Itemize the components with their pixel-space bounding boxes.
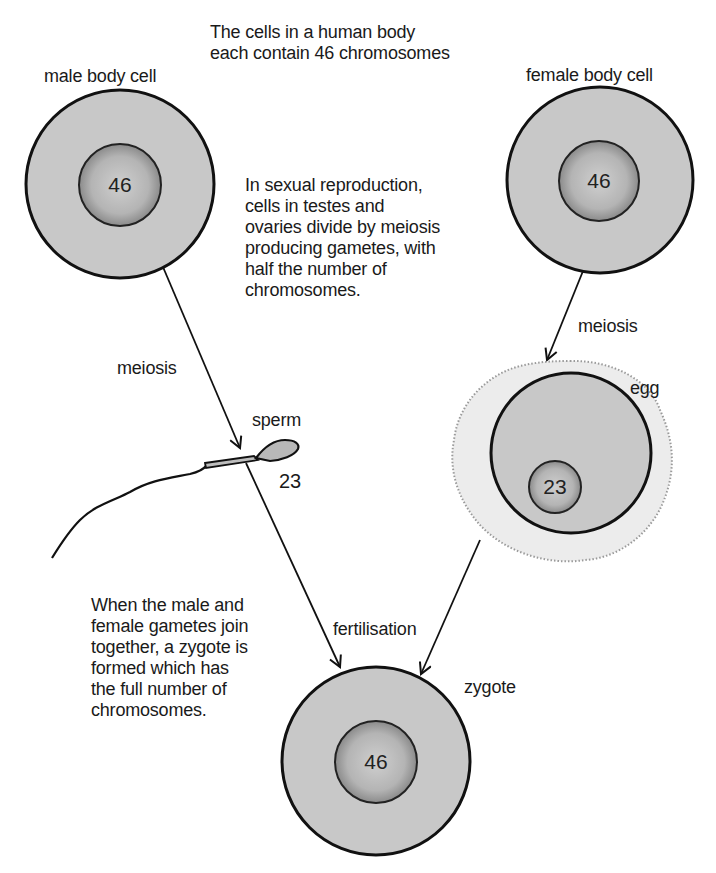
meiosis-fertilisation-diagram: 46 46 23 46 bbox=[0, 0, 716, 873]
fertilisation-arrow-from-egg bbox=[421, 540, 480, 674]
male-body-cell-label: male body cell bbox=[44, 66, 156, 87]
female-body-cell-label: female body cell bbox=[526, 65, 653, 86]
egg-chromosome-count: 23 bbox=[543, 475, 566, 498]
female-cell-chromosome-count: 46 bbox=[587, 169, 610, 192]
sperm-head bbox=[256, 440, 298, 461]
fertilisation-explanation: When the male and female gametes join to… bbox=[91, 595, 248, 721]
sperm-chromosome-count: 23 bbox=[279, 471, 301, 492]
sperm-label: sperm bbox=[252, 410, 301, 431]
zygote-label: zygote bbox=[464, 677, 516, 698]
meiosis-label-female: meiosis bbox=[578, 316, 638, 337]
male-body-cell: 46 bbox=[26, 90, 214, 278]
fertilisation-label: fertilisation bbox=[333, 619, 416, 640]
sperm-tail bbox=[52, 466, 206, 558]
female-body-cell: 46 bbox=[507, 87, 693, 273]
meiosis-explanation: In sexual reproduction, cells in testes … bbox=[245, 175, 440, 301]
zygote-cell: 46 bbox=[282, 667, 470, 855]
diagram-title: The cells in a human body each contain 4… bbox=[210, 22, 450, 64]
sperm-midpiece bbox=[205, 456, 258, 468]
sperm-cell bbox=[52, 440, 298, 558]
fertilisation-arrow-from-sperm bbox=[246, 463, 340, 667]
zygote-chromosome-count: 46 bbox=[364, 750, 387, 773]
meiosis-label-male: meiosis bbox=[117, 358, 177, 379]
egg-label: egg bbox=[630, 378, 659, 399]
male-cell-chromosome-count: 46 bbox=[108, 173, 131, 196]
